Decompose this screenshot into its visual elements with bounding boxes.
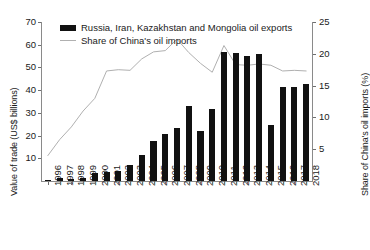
x-axis-tick-mark — [107, 182, 108, 185]
y-axis-left-tick-mark — [38, 67, 41, 68]
y-axis-left-tick-mark — [38, 113, 41, 114]
y-axis-right-tick-label: 5 — [319, 143, 341, 154]
bar — [233, 53, 239, 181]
y-axis-left-tick-label: 10 — [14, 152, 36, 163]
chart-legend: Russia, Iran, Kazakhstan and Mongolia oi… — [60, 21, 292, 47]
bar — [268, 125, 274, 181]
x-axis-tick-mark — [224, 182, 225, 185]
bar — [57, 178, 63, 181]
x-axis-tick-mark — [83, 182, 84, 185]
x-axis-tick-mark — [306, 182, 307, 185]
y-axis-left-tick-label: 60 — [14, 39, 36, 50]
legend-bar-label: Russia, Iran, Kazakhstan and Mongolia oi… — [81, 22, 292, 33]
x-axis-tick-mark — [142, 182, 143, 185]
bar — [45, 180, 51, 181]
y-axis-left-tick-label: 50 — [14, 61, 36, 72]
y-axis-right-tick-mark — [313, 86, 316, 87]
bar — [221, 52, 227, 181]
x-axis-tick-mark — [165, 182, 166, 185]
legend-bar-swatch-icon — [60, 25, 76, 31]
y-axis-right-tick-mark — [313, 117, 316, 118]
bar — [291, 87, 297, 181]
y-axis-right-tick-label: 25 — [319, 16, 341, 27]
legend-item-line: Share of China's oil imports — [60, 34, 292, 47]
x-axis-tick-mark — [271, 182, 272, 185]
y-axis-right-tick-mark — [313, 54, 316, 55]
y-axis-left-tick-mark — [38, 158, 41, 159]
x-axis-tick-mark — [236, 182, 237, 185]
y-axis-left-tick-label: 20 — [14, 130, 36, 141]
y-axis-right-title: Share of China's oil imports (%) — [360, 73, 370, 196]
legend-line-label: Share of China's oil imports — [81, 35, 197, 46]
x-axis-tick-mark — [48, 182, 49, 185]
x-axis-tick-mark — [200, 182, 201, 185]
x-axis-tick-mark — [283, 182, 284, 185]
x-axis-tick-mark — [294, 182, 295, 185]
bar — [186, 106, 192, 181]
y-axis-right-tick-label: 15 — [319, 80, 341, 91]
bar — [256, 54, 262, 181]
y-axis-left-tick-mark — [38, 22, 41, 23]
y-axis-right-tick-mark — [313, 22, 316, 23]
y-axis-right-tick-label: 10 — [319, 111, 341, 122]
y-axis-right-tick-label: 20 — [319, 48, 341, 59]
y-axis-right-tick-mark — [313, 149, 316, 150]
bar — [174, 128, 180, 181]
bar — [150, 141, 156, 181]
bar — [104, 172, 110, 181]
bar — [303, 84, 309, 181]
bar — [92, 173, 98, 181]
axis-spine-right — [312, 22, 313, 182]
x-axis-tick-mark — [118, 182, 119, 185]
bar — [80, 178, 86, 181]
x-axis-tick-mark — [130, 182, 131, 185]
y-axis-left-tick-label: 70 — [14, 16, 36, 27]
x-axis-tick-mark — [154, 182, 155, 185]
bar — [162, 134, 168, 181]
x-axis-tick-mark — [177, 182, 178, 185]
bar — [280, 87, 286, 181]
bar — [197, 131, 203, 181]
legend-line-swatch-icon — [60, 40, 76, 41]
y-axis-left-tick-label: 40 — [14, 84, 36, 95]
y-axis-left-tick-mark — [38, 90, 41, 91]
x-axis-tick-mark — [95, 182, 96, 185]
x-axis-tick-mark — [212, 182, 213, 185]
x-axis-tick-mark — [60, 182, 61, 185]
x-axis-tick-mark — [71, 182, 72, 185]
x-axis-tick-mark — [189, 182, 190, 185]
y-axis-left-tick-mark — [38, 136, 41, 137]
x-axis-tick-mark — [259, 182, 260, 185]
bar — [139, 155, 145, 181]
bar — [115, 171, 121, 181]
x-axis-tick-mark — [247, 182, 248, 185]
bar — [68, 179, 74, 181]
legend-item-bar: Russia, Iran, Kazakhstan and Mongolia oi… — [60, 21, 292, 34]
bar — [209, 109, 215, 181]
y-axis-left-tick-label: 30 — [14, 107, 36, 118]
bar — [127, 165, 133, 181]
bar — [244, 56, 250, 181]
y-axis-left-tick-mark — [38, 45, 41, 46]
y-axis-left-title: Value of trade (US$ billions) — [9, 88, 19, 197]
